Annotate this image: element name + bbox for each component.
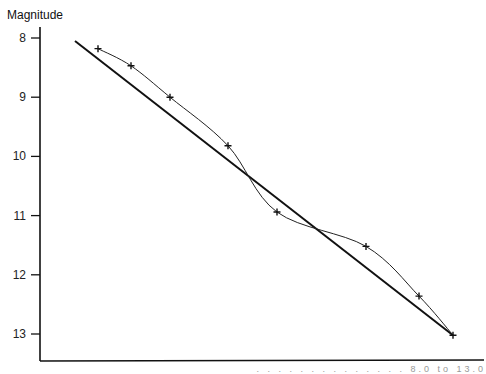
y-tick-label: 12 bbox=[13, 268, 27, 282]
observed-curve bbox=[98, 49, 453, 336]
y-tick-label: 8 bbox=[19, 31, 26, 45]
cross-marker-icon bbox=[95, 45, 102, 52]
y-tick-label: 10 bbox=[13, 149, 27, 163]
chart-plot: 8910111213 bbox=[0, 0, 486, 374]
x-axis-line bbox=[40, 360, 484, 361]
cross-marker-icon bbox=[363, 243, 370, 250]
y-tick-label: 9 bbox=[19, 90, 26, 104]
linear-fit-line bbox=[75, 41, 453, 335]
y-ticks: 8910111213 bbox=[13, 31, 40, 341]
cross-marker-icon bbox=[128, 62, 135, 69]
y-tick-label: 11 bbox=[14, 209, 27, 223]
figure-caption-fragment: . . . . . . . . . . . . . . 8.0 to 13.0 bbox=[150, 364, 486, 374]
y-tick-label: 13 bbox=[13, 327, 27, 341]
